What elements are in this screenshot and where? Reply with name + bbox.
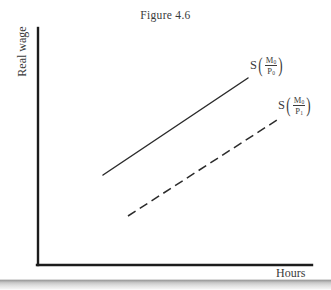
fraction-denominator: P1 — [294, 106, 303, 115]
right-paren-glyph: ) — [279, 55, 283, 76]
page-bottom-strip — [0, 279, 331, 290]
curve-label-solid-symbol: S — [250, 59, 257, 72]
right-paren-glyph: ) — [307, 95, 311, 116]
figure-container: Figure 4.6 Real wage Hours S ( M0 P0 ) S… — [0, 0, 331, 290]
curve-label-dashed: S ( M0 P1 ) — [278, 95, 312, 116]
left-paren-glyph: ( — [259, 55, 263, 76]
fraction-numerator: M0 — [293, 96, 305, 106]
y-axis-label: Real wage — [15, 12, 30, 92]
curve-label-solid-fraction: M0 P0 — [265, 56, 277, 76]
left-paren-glyph: ( — [287, 95, 291, 116]
supply-curve-solid — [103, 78, 248, 175]
supply-curve-dashed — [128, 120, 277, 216]
plot-canvas — [0, 0, 331, 290]
fraction-numerator: M0 — [265, 56, 277, 66]
fraction-denominator: P0 — [266, 66, 275, 75]
curve-label-dashed-symbol: S — [278, 99, 285, 112]
curve-label-dashed-fraction: M0 P1 — [293, 96, 305, 116]
curve-label-solid: S ( M0 P0 ) — [250, 55, 284, 76]
